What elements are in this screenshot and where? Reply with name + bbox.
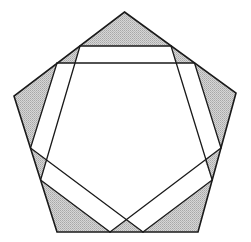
shaded-bottom-center (110, 220, 143, 233)
pentagon-band-diagram (0, 0, 251, 242)
shaded-left-corner (14, 63, 57, 148)
shaded-right-corner (195, 63, 237, 148)
shaded-top-corner (80, 12, 171, 46)
